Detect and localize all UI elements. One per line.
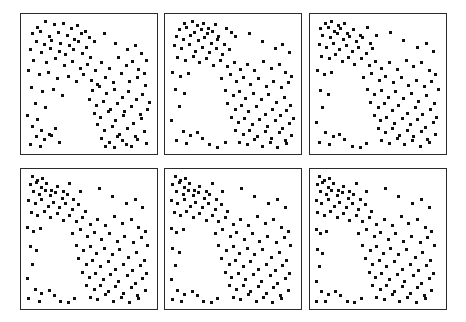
scatter-point <box>135 251 138 254</box>
scatter-point <box>171 298 174 301</box>
scatter-point <box>176 289 179 292</box>
scatter-point <box>365 52 368 55</box>
scatter-point <box>272 218 275 221</box>
scatter-point <box>327 293 330 296</box>
scatter-point <box>224 141 227 144</box>
scatter-point <box>290 134 293 137</box>
scatter-point <box>370 72 373 75</box>
scatter-point <box>281 43 284 46</box>
scatter-point <box>36 118 39 121</box>
scatter-point <box>27 199 30 202</box>
scatter-point <box>346 300 349 303</box>
scatter-point <box>324 22 327 25</box>
scatter-point <box>274 269 277 272</box>
scatter-point <box>136 138 139 141</box>
scatter-point <box>275 101 278 104</box>
scatter-point <box>205 190 208 193</box>
scatter-point <box>284 71 287 74</box>
scatter-point <box>432 272 435 275</box>
scatter-point <box>420 198 423 201</box>
scatter-point <box>409 292 412 295</box>
scatter-point <box>412 65 415 68</box>
scatter-point <box>47 71 50 74</box>
scatter-point <box>31 175 34 178</box>
scatter-point <box>384 75 387 78</box>
scatter-point <box>424 126 427 129</box>
scatter-point <box>385 116 388 119</box>
scatter-point <box>66 34 69 37</box>
scatter-point <box>276 146 279 149</box>
scatter-point <box>107 260 110 263</box>
scatter-point <box>380 272 383 275</box>
scatter-point <box>72 198 75 201</box>
scatter-point <box>89 296 92 299</box>
scatter-point <box>283 96 286 99</box>
scatter-point <box>365 142 368 145</box>
scatter-point <box>425 94 428 97</box>
scatter-point <box>347 56 350 59</box>
scatter-point <box>270 256 273 259</box>
scatter-point <box>120 72 123 75</box>
scatter-point <box>39 30 42 33</box>
scatter-point <box>428 69 431 72</box>
scatter-point <box>353 301 356 304</box>
scatter-point <box>319 190 322 193</box>
scatter-point <box>40 51 43 54</box>
scatter-point <box>352 28 355 31</box>
scatter-point <box>171 183 174 186</box>
plot-area-panel-5 <box>165 169 301 309</box>
scatter-point <box>285 109 288 112</box>
scatter-point <box>215 198 218 201</box>
scatter-point <box>402 97 405 100</box>
scatter-point <box>315 121 318 124</box>
scatter-point <box>201 206 204 209</box>
scatter-point <box>258 118 261 121</box>
scatter-point <box>207 27 210 30</box>
scatter-point <box>170 278 173 281</box>
scatter-panel-top-right[interactable] <box>309 13 447 155</box>
scatter-point <box>52 201 55 204</box>
scatter-point <box>264 222 267 225</box>
scatter-point <box>176 202 179 205</box>
scatter-panel-top-middle[interactable] <box>164 13 302 155</box>
scatter-point <box>136 76 139 79</box>
scatter-point <box>203 36 206 39</box>
scatter-point <box>261 248 264 251</box>
scatter-point <box>409 263 412 266</box>
scatter-point <box>234 129 237 132</box>
scatter-point <box>357 208 360 211</box>
scatter-point <box>258 240 261 243</box>
scatter-point <box>88 276 91 279</box>
scatter-point <box>143 259 146 262</box>
scatter-point <box>117 56 120 59</box>
scatter-point <box>170 199 173 202</box>
scatter-point <box>220 257 223 260</box>
scatter-point <box>362 76 365 79</box>
scatter-point <box>31 263 34 266</box>
scatter-point <box>85 284 88 287</box>
scatter-point <box>219 59 222 62</box>
scatter-point <box>225 27 228 30</box>
scatter-panel-bottom-right[interactable] <box>309 168 447 310</box>
scatter-point <box>84 30 87 33</box>
scatter-panel-bottom-middle[interactable] <box>164 168 302 310</box>
scatter-point <box>246 63 249 66</box>
scatter-point <box>361 244 364 247</box>
scatter-point <box>288 272 291 275</box>
scatter-point <box>229 235 232 238</box>
scatter-point <box>421 113 424 116</box>
scatter-point <box>50 39 53 42</box>
scatter-panel-top-left[interactable] <box>20 13 158 155</box>
scatter-point <box>111 195 114 198</box>
scatter-point <box>269 274 272 277</box>
scatter-point <box>342 38 345 41</box>
scatter-point <box>35 40 38 43</box>
scatter-panel-bottom-left[interactable] <box>20 168 158 310</box>
scatter-point <box>285 142 288 145</box>
scatter-point <box>401 285 404 288</box>
scatter-point <box>343 22 346 25</box>
scatter-point <box>44 106 47 109</box>
scatter-point <box>49 194 52 197</box>
scatter-point <box>193 31 196 34</box>
scatter-point <box>145 59 148 62</box>
